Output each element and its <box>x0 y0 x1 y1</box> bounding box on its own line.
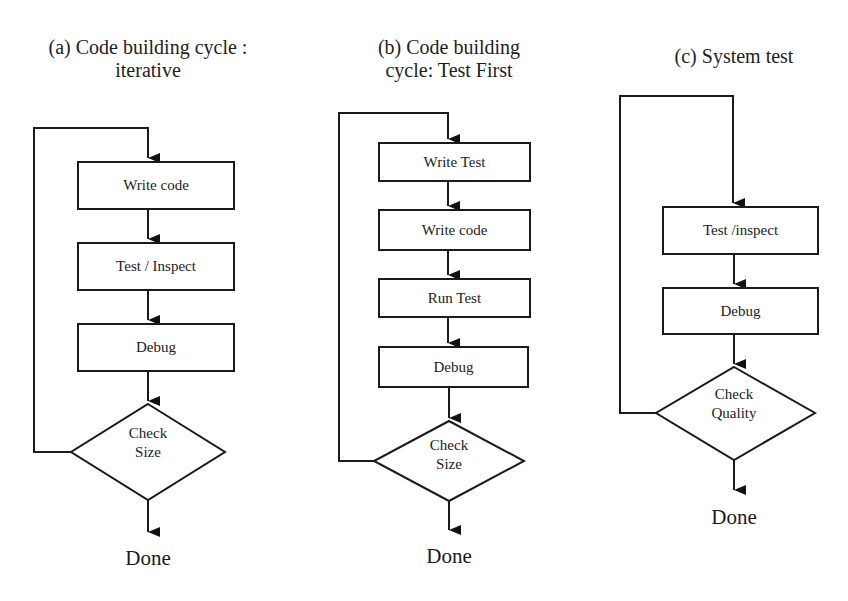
decision-line2: Size <box>399 455 499 474</box>
decision-label-b: Check Size <box>399 436 499 474</box>
step-test-inspect-a: Test / Inspect <box>77 242 235 291</box>
step-label: Write code <box>422 222 488 239</box>
step-debug-a: Debug <box>77 323 235 372</box>
step-write-test-b: Write Test <box>378 142 531 182</box>
done-label-a: Done <box>98 546 198 571</box>
step-label: Write Test <box>424 154 486 171</box>
step-write-code-a: Write code <box>77 161 235 210</box>
decision-label-a: Check Size <box>98 424 198 462</box>
step-debug-c: Debug <box>662 287 819 335</box>
done-label-c: Done <box>684 505 784 530</box>
decision-line1: Check <box>399 436 499 455</box>
step-test-inspect-c: Test /inspect <box>662 206 819 255</box>
diagram-c-title-line1: (c) System test <box>634 45 834 68</box>
decision-line1: Check <box>684 385 784 404</box>
step-label: Debug <box>721 303 761 320</box>
diagram-a-title-line1: (a) Code building cycle : <box>0 36 296 59</box>
diagram-b-title-line1: (b) Code building <box>340 36 558 59</box>
step-label: Test /inspect <box>703 222 778 239</box>
step-label: Debug <box>434 359 474 376</box>
diagram-b-title: (b) Code building cycle: Test First <box>340 36 558 82</box>
diagram-c-title: (c) System test <box>634 45 834 68</box>
diagram-a-title-line2: iterative <box>0 59 296 82</box>
diagram-b-title-line2: cycle: Test First <box>340 59 558 82</box>
step-debug-b: Debug <box>378 346 529 388</box>
step-label: Test / Inspect <box>116 258 196 275</box>
step-label: Debug <box>136 339 176 356</box>
decision-line1: Check <box>98 424 198 443</box>
step-label: Run Test <box>428 290 481 307</box>
decision-line2: Quality <box>684 404 784 423</box>
step-label: Write code <box>123 177 189 194</box>
step-write-code-b: Write code <box>378 209 531 251</box>
diagram-a-title: (a) Code building cycle : iterative <box>0 36 296 82</box>
decision-line2: Size <box>98 443 198 462</box>
decision-label-c: Check Quality <box>684 385 784 423</box>
step-run-test-b: Run Test <box>378 278 531 318</box>
done-label-b: Done <box>399 544 499 569</box>
